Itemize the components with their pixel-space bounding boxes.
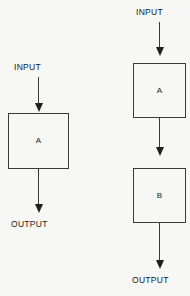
block-a: A [133,63,186,118]
interstage-connector-shaft [159,118,160,150]
input-connector-shaft [159,22,160,49]
block-a: A [8,113,69,169]
output-connector-shaft [159,223,160,263]
block-b-label: B [134,192,185,200]
input-label: INPUT [14,63,41,72]
two-stage-cascade-block-diagram: INPUT A B OUTPUT [95,0,190,296]
single-stage-block-diagram: INPUT A OUTPUT [0,0,95,296]
input-arrowhead-icon [35,103,43,112]
output-label: OUTPUT [11,220,48,229]
block-a-label: A [9,137,68,145]
block-a-label: A [134,87,185,95]
output-label: OUTPUT [132,276,169,285]
input-label: INPUT [136,8,163,17]
block-b: B [133,168,186,223]
input-connector-shaft [38,77,39,105]
output-connector-shaft [38,169,39,207]
interstage-arrowhead-icon [156,147,164,156]
input-arrowhead-icon [156,47,164,56]
figure-canvas: INPUT A OUTPUT INPUT A B OUTPUT [0,0,190,296]
output-arrowhead-icon [35,204,43,213]
output-arrowhead-icon [156,260,164,269]
